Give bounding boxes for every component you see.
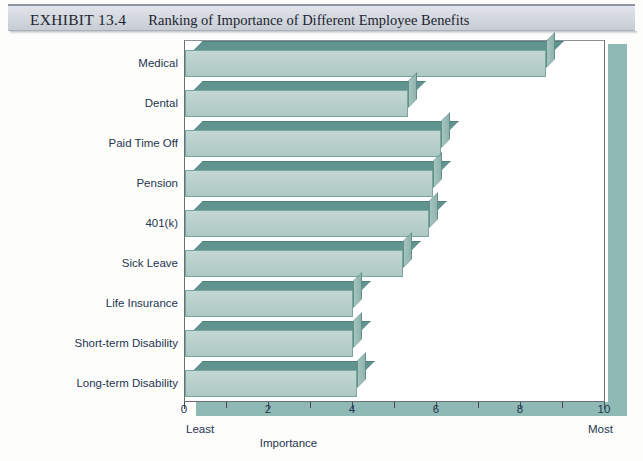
bar-top-face [194,281,371,290]
x-tick-label: 2 [265,403,271,415]
bar-front-face [185,50,546,77]
bar-long-term-disability [185,370,357,397]
bar-side-face [408,72,417,108]
bar-side-face [403,232,412,268]
bar-front-face [185,210,429,237]
x-tick-label: 4 [349,403,355,415]
bar-short-term-disability [185,330,353,357]
bar-side-face [357,352,366,388]
bar-series [185,41,605,401]
x-tick-label: 10 [598,403,611,415]
accent-band-right [608,44,627,409]
header-shadow [10,31,637,34]
bar-side-face [353,312,362,348]
category-label: Medical [0,57,178,69]
x-tick-label: 6 [433,403,439,415]
category-label: 401(k) [0,217,178,229]
bar-front-face [185,130,441,157]
category-label: Long-term Disability [0,377,178,389]
category-label: Paid Time Off [0,137,178,149]
exhibit-header-text: EXHIBIT 13.4 Ranking of Importance of Di… [30,9,469,31]
bar-medical [185,50,546,77]
bar-front-face [185,250,403,277]
bar-paid-time-off [185,130,441,157]
bar-top-face [194,81,426,90]
bar-front-face [185,170,433,197]
bar-top-face [194,121,459,130]
bar-side-face [546,32,555,68]
bar-side-face [433,152,442,188]
exhibit-number: EXHIBIT 13.4 [30,11,126,29]
axis-most-label: Most [588,423,613,435]
x-tick-label: 0 [181,403,187,415]
category-axis-labels: MedicalDentalPaid Time OffPension401(k)S… [0,41,178,401]
bar-life-insurance [185,290,353,317]
bar-top-face [194,361,375,370]
category-label: Sick Leave [0,257,178,269]
exhibit-page: EXHIBIT 13.4 Ranking of Importance of Di… [0,0,643,461]
bar-front-face [185,330,353,357]
exhibit-title: Ranking of Importance of Different Emplo… [148,12,469,29]
exhibit-header-band: EXHIBIT 13.4 Ranking of Importance of Di… [8,4,635,31]
bar-front-face [185,370,357,397]
bar-front-face [185,290,353,317]
bar-top-face [194,241,421,250]
bar-top-face [194,161,451,170]
bar-401-k [185,210,429,237]
bar-dental [185,90,408,117]
x-tick-label: 8 [517,403,523,415]
axis-least-label: Least [186,423,214,435]
bar-side-face [353,272,362,308]
bar-top-face [194,201,447,210]
bar-top-face [194,321,371,330]
category-label: Dental [0,97,178,109]
bar-side-face [429,192,438,228]
bar-pension [185,170,433,197]
bar-side-face [441,112,450,148]
x-axis-tick-labels: 0246810 [0,403,643,419]
category-label: Pension [0,177,178,189]
bar-front-face [185,90,408,117]
x-axis-title: Importance [0,437,643,449]
bar-sick-leave [185,250,403,277]
category-label: Short-term Disability [0,337,178,349]
category-label: Life Insurance [0,297,178,309]
x-axis-title-text: Importance [260,437,318,449]
bar-top-face [194,41,564,50]
